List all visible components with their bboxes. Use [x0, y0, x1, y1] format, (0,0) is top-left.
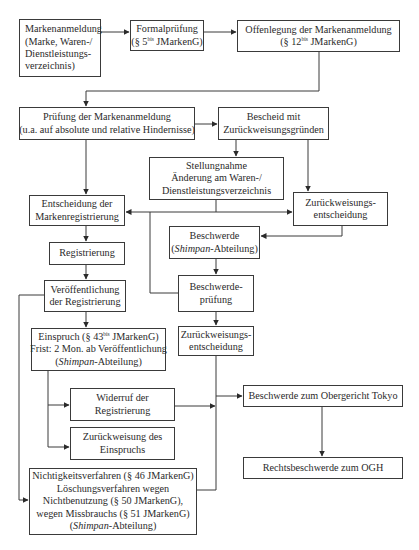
- node-text: Nichtbenutzung (§ 50 JMarkenG),: [43, 495, 183, 507]
- node-text: (Shimpan-Abteilung): [171, 243, 258, 255]
- node-text: wegen Missbrauchs (§ 51 JMarkenG): [36, 508, 189, 520]
- node-appeal-high-court: Beschwerde zum Obergericht Tokyo: [243, 385, 403, 407]
- node-text: Rechtsbeschwerde zum OGH: [263, 462, 384, 474]
- node-formal-examination: Formalprüfung (§ 5bis JMarkenG): [130, 20, 204, 51]
- node-text: Zurückweisung des: [83, 431, 163, 443]
- node-rejection-decision-1: Zurückweisungs- entscheidung: [293, 192, 388, 226]
- node-text: Registrierung: [95, 405, 150, 417]
- node-text: Dienstleistungs-: [25, 48, 91, 60]
- node-rejection-notice: Bescheid mit Zurückweisungsgründen: [218, 107, 329, 140]
- node-examination: Prüfung der Markenanmeldung (u.a. auf ab…: [19, 107, 195, 140]
- node-appeal-examination: Beschwerde- prüfung: [178, 275, 254, 312]
- node-appeal-shimpan: Beschwerde (Shimpan-Abteilung): [169, 226, 260, 259]
- node-registration: Registrierung: [49, 242, 125, 265]
- node-legal-reference: (§ 5bis JMarkenG): [131, 36, 203, 48]
- node-text: Formalprüfung: [136, 23, 198, 35]
- node-text: Widerruf der: [96, 392, 148, 404]
- node-text: (u.a. auf absolute und relative Hinderni…: [19, 124, 195, 136]
- node-registration-decision: Entscheidung der Markenregistrierung: [29, 195, 125, 226]
- node-text: Frist: 2 Mon. ab Veröffentlichung: [30, 343, 167, 355]
- node-legal-reference: (§ 12bis JMarkenG): [280, 36, 357, 48]
- node-text: Beschwerde-: [189, 281, 242, 293]
- node-opposition: Einspruch (§ 43bis JMarkenG) Frist: 2 Mo…: [31, 328, 166, 371]
- node-text: Registrierung: [59, 247, 114, 259]
- node-text: Löschungsverfahren wegen: [57, 483, 169, 495]
- node-text: Veröffentlichung: [51, 284, 120, 296]
- node-text: Zurückweisungsgründen: [223, 124, 324, 136]
- node-text: Zurückweisungs-: [181, 329, 252, 341]
- node-legal-reference: Einspruch (§ 43bis JMarkenG): [38, 331, 158, 343]
- node-text: Beschwerde: [190, 230, 240, 242]
- node-invalidation-cancellation: Nichtigkeitsverfahren (§ 46 JMarkenG) Lö…: [29, 468, 197, 535]
- node-text: (Shimpan-Abteilung): [55, 356, 142, 368]
- node-text: verzeichnis): [25, 60, 75, 72]
- node-text: Entscheidung der: [41, 198, 112, 210]
- node-text: Nichtigkeitsverfahren (§ 46 JMarkenG): [32, 470, 194, 482]
- node-text: entscheidung: [189, 341, 243, 353]
- node-text: der Registrierung: [49, 296, 120, 308]
- node-text: Einspruchs: [100, 444, 145, 456]
- node-text: Änderung am Waren-/: [171, 172, 262, 184]
- node-legal-appeal-supreme-court: Rechtsbeschwerde zum OGH: [243, 457, 403, 479]
- node-rejection-decision-2: Zurückweisungs- entscheidung: [178, 326, 254, 356]
- node-opposition-rejected: Zurückweisung des Einspruchs: [70, 427, 175, 460]
- node-disclosure: Offenlegung der Markenanmeldung (§ 12bis…: [237, 20, 400, 52]
- node-revocation: Widerruf der Registrierung: [70, 388, 175, 421]
- node-text: Prüfung der Markenanmeldung: [43, 111, 171, 123]
- node-text: Zurückweisungs-: [305, 197, 376, 209]
- node-publication: Veröffentlichung der Registrierung: [44, 280, 126, 312]
- node-text: Markenanmeldung: [25, 23, 102, 35]
- node-text: Dienstleistungsverzeichnis: [162, 185, 271, 197]
- node-text: entscheidung: [314, 209, 368, 221]
- node-text: prüfung: [200, 294, 232, 306]
- node-trademark-application: Markenanmeldung (Marke, Waren-/ Dienstle…: [19, 19, 101, 77]
- node-text: (Marke, Waren-/: [25, 36, 92, 48]
- node-text: (Shimpan-Abteilung): [70, 520, 157, 532]
- node-text: Offenlegung der Markenanmeldung: [245, 24, 391, 36]
- node-text: Markenregistrierung: [35, 211, 119, 223]
- node-response-amendment: Stellungnahme Änderung am Waren-/ Dienst…: [149, 157, 284, 200]
- node-text: Bescheid mit: [247, 111, 300, 123]
- node-text: Stellungnahme: [186, 160, 247, 172]
- node-text: Beschwerde zum Obergericht Tokyo: [248, 390, 397, 402]
